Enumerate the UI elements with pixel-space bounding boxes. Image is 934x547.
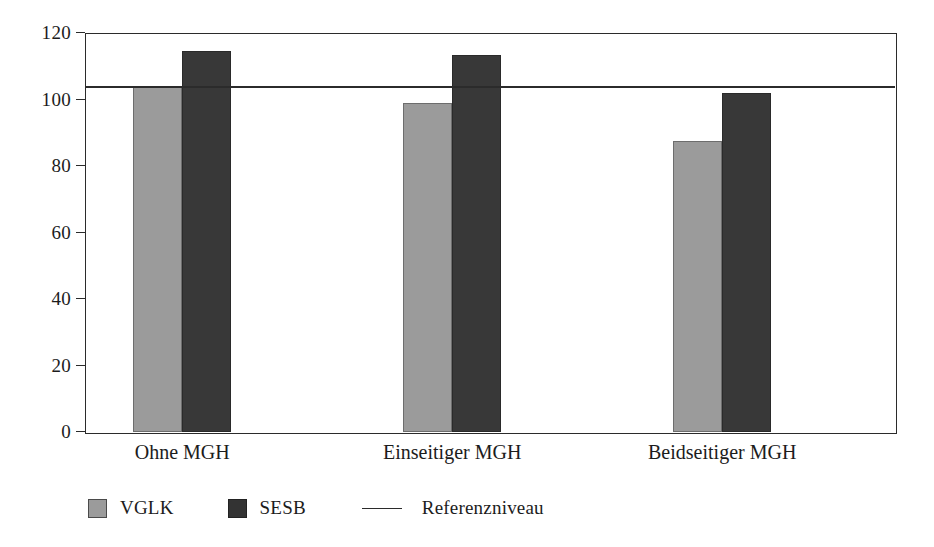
- bar-sesb-0: [182, 51, 231, 432]
- legend-label-sesb: SESB: [260, 496, 306, 520]
- y-axis-tick-label: 40: [51, 286, 71, 312]
- reference-line: [85, 86, 895, 88]
- bar-chart-figure: 020406080100120 Ohne MGHEinseitiger MGHB…: [0, 0, 934, 547]
- bar-vglk-2: [673, 141, 722, 432]
- legend-swatch-vglk-icon: [88, 499, 107, 518]
- x-axis-label-2: Beidseitiger MGH: [648, 438, 796, 466]
- bar-vglk-0: [133, 86, 182, 432]
- bar-vglk-1: [403, 103, 452, 432]
- legend-label-vglk: VGLK: [120, 496, 174, 520]
- y-axis-tick-label: 0: [61, 419, 71, 445]
- legend-line-reference-icon: [362, 508, 402, 509]
- y-axis-tick-mark: [76, 365, 85, 366]
- y-axis-tick-mark: [76, 431, 85, 432]
- y-axis-tick-mark: [76, 99, 85, 100]
- y-axis: 020406080100120: [0, 0, 85, 547]
- x-axis-category-labels: Ohne MGHEinseitiger MGHBeidseitiger MGH: [85, 438, 895, 468]
- y-axis-tick-label: 100: [42, 87, 71, 113]
- bars-layer: [85, 33, 895, 432]
- legend-item-vglk: VGLK: [88, 496, 174, 520]
- x-axis-label-0: Ohne MGH: [135, 438, 230, 466]
- y-axis-tick-mark: [76, 298, 85, 299]
- bar-sesb-2: [722, 93, 771, 432]
- y-axis-tick-mark: [76, 232, 85, 233]
- y-axis-tick-label: 120: [42, 20, 71, 46]
- legend-item-reference: Referenzniveau: [362, 496, 544, 520]
- legend-item-sesb: SESB: [228, 496, 306, 520]
- y-axis-tick-label: 80: [51, 153, 71, 179]
- y-axis-tick-label: 60: [51, 220, 71, 246]
- y-axis-tick-mark: [76, 32, 85, 33]
- bar-sesb-1: [452, 55, 501, 432]
- legend-swatch-sesb-icon: [228, 499, 247, 518]
- legend-label-reference: Referenzniveau: [422, 496, 544, 520]
- y-axis-tick-mark: [76, 165, 85, 166]
- x-axis-label-1: Einseitiger MGH: [383, 438, 521, 466]
- y-axis-tick-label: 20: [51, 353, 71, 379]
- chart-legend: VGLK SESB Referenzniveau: [88, 495, 544, 521]
